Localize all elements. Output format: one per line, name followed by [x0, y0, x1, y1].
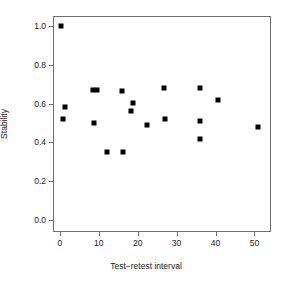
y-axis-title: Stability	[0, 109, 8, 139]
y-axis-tick	[49, 104, 54, 105]
data-point	[256, 124, 261, 129]
data-area	[54, 17, 270, 231]
data-point	[163, 117, 168, 122]
data-point	[59, 23, 64, 28]
y-axis-tick-label: 0.0	[34, 216, 46, 225]
data-point	[162, 86, 167, 91]
data-point	[145, 122, 150, 127]
data-point	[120, 88, 125, 93]
data-point	[197, 119, 202, 124]
data-point	[62, 105, 67, 110]
x-axis-tick-label: 50	[250, 239, 259, 248]
x-axis-tick-label: 40	[211, 239, 220, 248]
data-point	[92, 121, 97, 126]
x-axis-tick	[216, 231, 217, 236]
x-axis-tick	[60, 231, 61, 236]
y-axis-tick	[49, 26, 54, 27]
x-axis-tick	[138, 231, 139, 236]
data-point	[215, 97, 220, 102]
y-axis-tick-label: 0.2	[34, 177, 46, 186]
plot-panel: 0.00.20.40.60.81.001020304050	[53, 16, 271, 232]
x-axis-tick	[99, 231, 100, 236]
data-point	[60, 117, 65, 122]
y-axis-tick-label: 0.6	[34, 99, 46, 108]
data-point	[104, 150, 109, 155]
y-axis-tick	[49, 220, 54, 221]
y-axis-tick-label: 1.0	[34, 22, 46, 31]
y-axis-tick	[49, 142, 54, 143]
x-axis-tick-label: 0	[57, 239, 62, 248]
data-point	[130, 100, 135, 105]
y-axis-tick	[49, 65, 54, 66]
x-axis-tick	[254, 231, 255, 236]
data-point	[128, 109, 133, 114]
x-axis-tick-label: 20	[133, 239, 142, 248]
scatter-plot-figure: 0.00.20.40.60.81.001020304050 Stability …	[0, 0, 292, 294]
data-point	[197, 86, 202, 91]
x-axis-tick	[177, 231, 178, 236]
data-point	[197, 136, 202, 141]
data-point	[121, 150, 126, 155]
y-axis-tick	[49, 181, 54, 182]
x-axis-title: Test−retest interval	[0, 262, 292, 271]
y-axis-tick-label: 0.8	[34, 60, 46, 69]
x-axis-tick-label: 30	[172, 239, 181, 248]
y-axis-tick-label: 0.4	[34, 138, 46, 147]
x-axis-tick-label: 10	[94, 239, 103, 248]
data-point	[95, 87, 100, 92]
